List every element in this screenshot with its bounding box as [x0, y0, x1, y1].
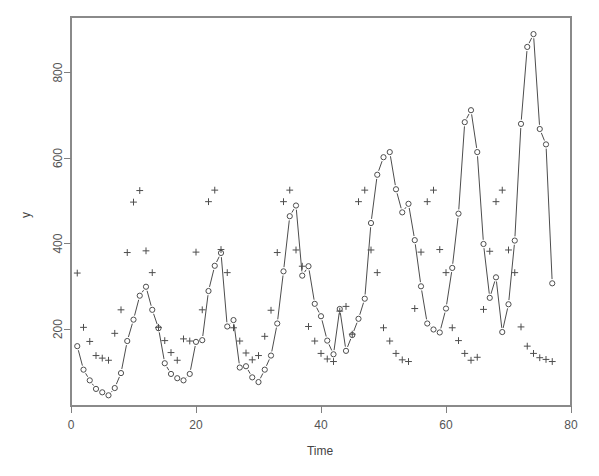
x-tick-label: 20 — [189, 418, 203, 432]
y-tick-label: 800 — [51, 62, 65, 82]
y-tick-label: 400 — [51, 233, 65, 253]
y-tick-label: 200 — [51, 319, 65, 339]
x-tick-label: 80 — [564, 418, 578, 432]
x-tick-label: 0 — [68, 418, 75, 432]
series-segment — [111, 391, 112, 392]
x-tick-label: 60 — [439, 418, 453, 432]
chart-svg: 020406080 200400600800 Time y — [0, 0, 599, 476]
y-tick-label: 600 — [51, 148, 65, 168]
x-tick-label: 40 — [314, 418, 328, 432]
chart-plot-area: 020406080 200400600800 Time y — [0, 0, 599, 476]
chart-background — [0, 0, 599, 476]
x-axis-title: Time — [307, 444, 334, 458]
y-axis-title: y — [19, 212, 33, 218]
